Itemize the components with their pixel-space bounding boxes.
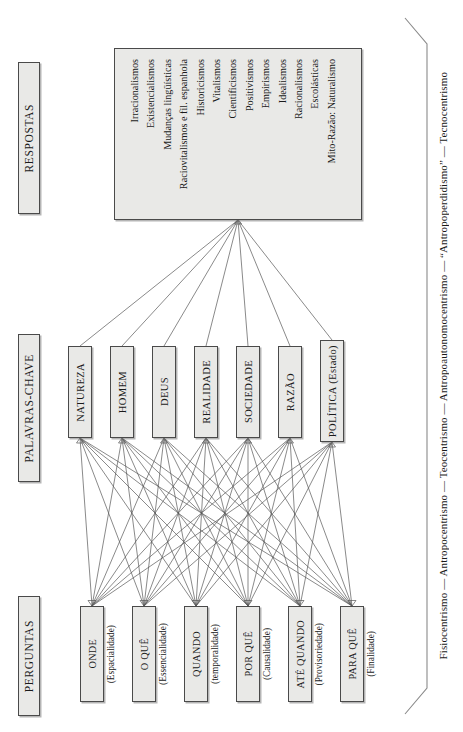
diagram-canvas: RESPOSTAS PALAVRAS-CHAVE PERGUNTAS Mito-…: [0, 0, 463, 732]
keyword-label: HOMEM: [117, 371, 128, 413]
question-label: ONDE: [87, 639, 98, 669]
question-box-o-que[interactable]: O QUÊ: [132, 606, 156, 702]
question-label: O QUÊ: [139, 638, 150, 670]
question-box-onde[interactable]: ONDE: [80, 606, 104, 702]
resposta-item-text: Existencialismos: [146, 59, 156, 128]
tier-label-palavras-chave-text: PALAVRAS-CHAVE: [23, 354, 35, 463]
keyword-label: SOCIEDADE: [243, 360, 254, 423]
keyword-label: DEUS: [159, 377, 170, 406]
question-sublabel-quando: (temporalidade): [208, 606, 222, 702]
resposta-item: Escolásticas: [307, 59, 323, 109]
resposta-item-text: Vitalismos: [212, 59, 222, 103]
keyword-label: RAZÃO: [285, 373, 296, 411]
respostas-list: Mito-Razão: NaturalismoEscolásticasRacio…: [127, 59, 340, 209]
resposta-item: Raciovitalismos e fil. espanhola: [176, 59, 192, 189]
tier-label-respostas: RESPOSTAS: [18, 62, 40, 214]
resposta-item-text: Positivismos: [245, 59, 255, 111]
resposta-item: Mudanças lingüísticas: [160, 59, 176, 150]
caption: Fisiocentrismo — Antropocentrismo — Teoc…: [430, 0, 456, 732]
resposta-item-text: Idealismos: [278, 59, 288, 103]
resposta-item: Vitalismos: [209, 59, 225, 103]
question-label: QUANDO: [191, 631, 202, 677]
keyword-box-realidade[interactable]: REALIDADE: [194, 346, 218, 438]
keyword-label: POLÍTICA (Estado): [327, 345, 338, 437]
resposta-item-text: Escolásticas: [310, 59, 320, 109]
keyword-box-deus[interactable]: DEUS: [152, 346, 176, 438]
question-sublabel-para-que: (Finalidade): [364, 606, 378, 702]
resposta-item-text: Mito-Razão: Naturalismo: [327, 59, 337, 163]
resposta-item-text: Irracionalismos: [130, 59, 140, 122]
keyword-box-razao[interactable]: RAZÃO: [278, 346, 302, 438]
resposta-item-text: Mudanças lingüísticas: [163, 59, 173, 150]
resposta-item-text: Cientificismos: [228, 59, 238, 118]
keyword-label: NATUREZA: [75, 363, 86, 422]
resposta-item: Existencialismos: [143, 59, 159, 128]
question-box-ate-quando[interactable]: ATÉ QUANDO: [288, 606, 312, 702]
question-box-quando[interactable]: QUANDO: [184, 606, 208, 702]
resposta-item-text: Historicismos: [196, 59, 206, 116]
question-label: POR QUÊ: [243, 631, 254, 676]
keyword-box-sociedade[interactable]: SOCIEDADE: [236, 346, 260, 438]
question-box-para-que[interactable]: PARA QUÊ: [340, 606, 364, 702]
question-label: PARA QUÊ: [347, 628, 358, 680]
question-sublabel-text: (Finalidade): [366, 631, 376, 677]
question-sublabel-text: (temporalidade): [210, 624, 220, 684]
respostas-box: Mito-Razão: NaturalismoEscolásticasRacio…: [114, 48, 362, 220]
resposta-item: Irracionalismos: [127, 59, 143, 122]
resposta-item: Idealismos: [275, 59, 291, 103]
question-sublabel-o-que: (Essencialidade): [156, 606, 170, 702]
question-sublabel-onde: (Espacialidade): [104, 606, 118, 702]
keyword-box-homem[interactable]: HOMEM: [110, 346, 134, 438]
resposta-item: Racionalismos: [291, 59, 307, 119]
question-sublabel-text: (Essencialidade): [158, 623, 168, 685]
question-box-por-que[interactable]: POR QUÊ: [236, 606, 260, 702]
resposta-item: Historicismos: [193, 59, 209, 116]
tier-label-palavras-chave: PALAVRAS-CHAVE: [18, 334, 40, 482]
tier-label-perguntas-text: PERGUNTAS: [23, 620, 35, 692]
resposta-item-text: Racionalismos: [294, 59, 304, 119]
tier-label-perguntas: PERGUNTAS: [18, 596, 40, 716]
tier-label-respostas-text: RESPOSTAS: [23, 104, 35, 172]
question-label: ATÉ QUANDO: [295, 620, 306, 688]
keyword-box-politica[interactable]: POLÍTICA (Estado): [320, 340, 344, 442]
keyword-box-natureza[interactable]: NATUREZA: [68, 346, 92, 438]
question-sublabel-ate-quando: (Provisoriedade): [312, 606, 326, 702]
caption-text: Fisiocentrismo — Antropocentrismo — Teoc…: [437, 72, 449, 659]
resposta-item-text: Empirismos: [261, 59, 271, 108]
keyword-label: REALIDADE: [201, 360, 212, 424]
resposta-item: Positivismos: [242, 59, 258, 111]
resposta-item: Cientificismos: [225, 59, 241, 118]
question-sublabel-text: (Provisoriedade): [314, 623, 324, 685]
resposta-item: Empirismos: [258, 59, 274, 108]
question-sublabel-text: (Espacialidade): [106, 625, 116, 683]
question-sublabel-por-que: (Causalidade): [260, 606, 274, 702]
resposta-item-text: Raciovitalismos e fil. espanhola: [179, 59, 189, 189]
resposta-item: Mito-Razão: Naturalismo: [324, 59, 340, 163]
question-sublabel-text: (Causalidade): [262, 628, 272, 680]
